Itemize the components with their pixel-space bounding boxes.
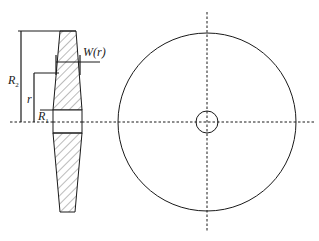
inner-radius-label: R1 (37, 109, 49, 125)
upper-web-section (53, 31, 82, 110)
disk-diagram: W(r) R2 r R1 (0, 0, 319, 241)
disk-cross-section (53, 31, 82, 212)
width-label: W(r) (83, 45, 106, 59)
outer-radius-label: R2 (7, 73, 19, 89)
radius-label: r (27, 92, 32, 106)
lower-web-section (53, 133, 82, 212)
